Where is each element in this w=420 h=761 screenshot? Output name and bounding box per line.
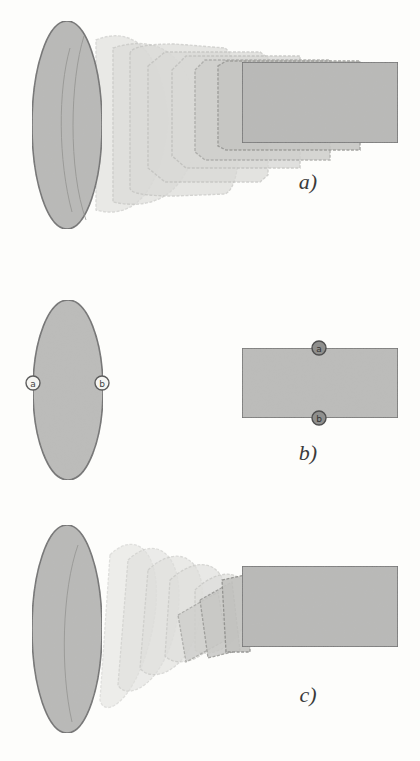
- source-ellipse: [33, 300, 103, 480]
- morph-diagram: a b a b: [0, 0, 420, 761]
- marker-label: b: [99, 379, 105, 389]
- rectangle-marker-a: a: [312, 341, 326, 355]
- target-rectangle: [242, 566, 398, 647]
- intermediate-shapes-c: [100, 544, 250, 707]
- panel-a: [32, 21, 398, 229]
- ellipse-marker-b: b: [95, 376, 109, 390]
- source-ellipse: [32, 525, 102, 733]
- source-ellipse: [32, 21, 102, 229]
- ellipse-marker-a: a: [26, 376, 40, 390]
- marker-label: a: [30, 379, 36, 389]
- panel-label-a: a): [299, 169, 317, 195]
- rectangle-marker-b: b: [312, 411, 326, 425]
- marker-label: b: [316, 414, 322, 424]
- panel-b: a b a b: [26, 300, 398, 480]
- panel-c: [32, 525, 398, 733]
- panel-label-c: c): [299, 682, 316, 708]
- panel-label-b: b): [299, 440, 317, 466]
- marker-label: a: [316, 344, 322, 354]
- target-rectangle: [242, 62, 398, 143]
- target-rectangle: [242, 348, 398, 418]
